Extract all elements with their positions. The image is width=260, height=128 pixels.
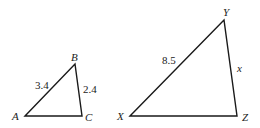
triangle-xyz-outline (130, 20, 237, 116)
side-label-xy: 8.5 (162, 54, 176, 66)
triangle-abc-outline (25, 64, 82, 116)
vertex-label-x: X (116, 110, 125, 122)
triangle-xyz: X Y Z 8.5 x (116, 6, 249, 123)
side-label-ab: 3.4 (35, 79, 49, 91)
triangle-abc: A B C 3.4 2.4 (11, 51, 97, 123)
side-label-bc: 2.4 (83, 83, 97, 95)
vertex-label-b: B (71, 51, 78, 63)
side-label-yz: x (236, 62, 242, 74)
vertex-label-a: A (11, 110, 19, 122)
similar-triangles-diagram: A B C 3.4 2.4 X Y Z 8.5 x (0, 0, 260, 128)
vertex-label-c: C (85, 111, 93, 123)
vertex-label-z: Z (242, 111, 249, 123)
vertex-label-y: Y (223, 6, 231, 18)
